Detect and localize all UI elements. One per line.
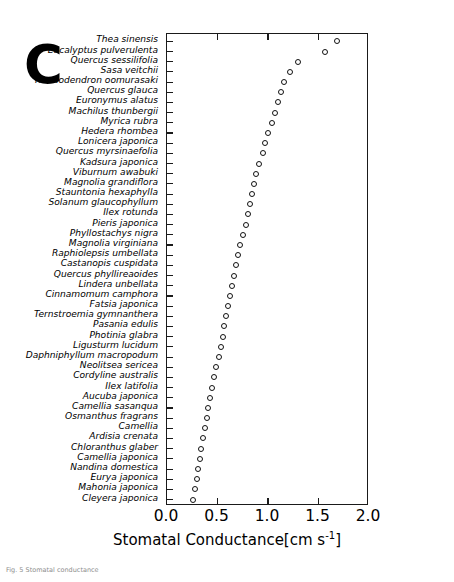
- data-point: [231, 273, 237, 279]
- y-axis-tick: [167, 387, 173, 388]
- data-point: [253, 171, 259, 177]
- x-axis-tick-labels: 0.00.51.01.52.0: [166, 508, 368, 528]
- data-point: [251, 181, 257, 187]
- y-axis-tick: [167, 132, 173, 133]
- y-axis-tick: [167, 234, 173, 235]
- y-axis-tick: [167, 255, 173, 256]
- x-axis-tick: [267, 498, 268, 504]
- category-label: Photinia glabra: [89, 331, 158, 340]
- category-label: Ligusturm lucidum: [73, 341, 158, 350]
- y-axis-tick: [167, 61, 173, 62]
- category-label: Camellia: [118, 423, 158, 432]
- y-axis-tick: [167, 224, 173, 225]
- data-point: [221, 323, 227, 329]
- y-axis-tick: [167, 41, 173, 42]
- y-axis-tick: [167, 316, 173, 317]
- figure-caption: Fig. 5 Stomatal conductance: [6, 566, 99, 574]
- x-axis-title-exponent: -1: [325, 530, 335, 541]
- y-axis-tick: [167, 407, 173, 408]
- x-axis-tick-label: 1.5: [305, 508, 330, 525]
- data-point: [295, 59, 301, 65]
- y-axis-tick: [167, 163, 173, 164]
- data-point: [287, 69, 293, 75]
- data-point: [200, 435, 206, 441]
- x-axis-title: Stomatal Conductance[cm s-1]: [0, 530, 454, 549]
- category-label: Euronymus alatus: [76, 97, 158, 106]
- data-point: [204, 415, 210, 421]
- y-axis-tick: [167, 367, 173, 368]
- category-label: Quercus glauca: [87, 87, 158, 96]
- category-label: Thea sinensis: [96, 36, 158, 45]
- category-label: Ternstroemia gymnanthera: [34, 311, 158, 320]
- y-axis-tick: [167, 377, 173, 378]
- category-label: Cinnamomum camphora: [45, 290, 158, 299]
- category-label: Viburnum awabuki: [73, 168, 158, 177]
- data-point: [272, 110, 278, 116]
- plot-area: [166, 33, 368, 505]
- data-point: [194, 476, 200, 482]
- category-label: Castanopis cuspidata: [61, 260, 158, 269]
- y-axis-tick: [167, 214, 173, 215]
- y-axis-tick: [167, 295, 173, 296]
- y-axis-tick: [167, 448, 173, 449]
- data-point: [225, 303, 231, 309]
- x-axis-tick-label: 0.0: [154, 508, 179, 525]
- category-label: Ardisia crenata: [89, 433, 158, 442]
- y-axis-tick: [167, 153, 173, 154]
- x-axis-title-end: ]: [335, 531, 341, 549]
- data-point: [243, 222, 249, 228]
- data-point: [278, 89, 284, 95]
- x-axis-tick-top: [267, 34, 268, 40]
- category-label: Quercus phyllireaoides: [54, 270, 158, 279]
- data-point: [265, 130, 271, 136]
- y-axis-tick: [167, 397, 173, 398]
- y-axis-tick: [167, 265, 173, 266]
- data-point: [260, 150, 266, 156]
- y-axis-tick: [167, 346, 173, 347]
- category-label: Eurya japonica: [91, 474, 158, 483]
- figure-panel-c: C Thea sinensisEucalyptus pulverulentaQu…: [0, 0, 454, 582]
- category-label: Quercus myrsinaefolia: [56, 148, 158, 157]
- category-label: Rhododendron oomurasaki: [35, 77, 158, 86]
- category-label: Raphiolepsis umbellata: [52, 250, 158, 259]
- y-axis-tick: [167, 82, 173, 83]
- category-label: Fatsia japonica: [90, 301, 158, 310]
- data-point: [269, 120, 275, 126]
- x-axis-tick-top: [217, 34, 218, 40]
- y-axis-tick: [167, 275, 173, 276]
- y-axis-tick: [167, 102, 173, 103]
- data-point: [322, 49, 328, 55]
- category-label: Cleyera japonica: [82, 494, 158, 503]
- data-point: [216, 354, 222, 360]
- category-label: Aucuba japonica: [83, 392, 158, 401]
- x-axis-tick: [217, 498, 218, 504]
- y-axis-tick: [167, 326, 173, 327]
- y-axis-tick: [167, 418, 173, 419]
- data-point: [205, 405, 211, 411]
- category-label: Mahonia japonica: [78, 484, 158, 493]
- data-point: [190, 497, 196, 503]
- category-label: Kadsura japonica: [80, 158, 158, 167]
- data-point: [192, 486, 198, 492]
- data-point: [223, 313, 229, 319]
- data-point: [220, 334, 226, 340]
- x-axis-tick-label: 0.5: [204, 508, 229, 525]
- y-axis-tick: [167, 194, 173, 195]
- y-axis-tick: [167, 112, 173, 113]
- category-label: Ilex rotunda: [103, 209, 158, 218]
- category-label: Hedera rhombea: [81, 127, 158, 136]
- category-label: Lonicera japonica: [78, 138, 158, 147]
- data-point: [227, 293, 233, 299]
- data-point: [197, 456, 203, 462]
- x-axis-tick-label: 2.0: [356, 508, 381, 525]
- category-label: Osmanthus fragrans: [65, 413, 158, 422]
- y-axis-tick: [167, 438, 173, 439]
- y-axis-tick: [167, 357, 173, 358]
- x-axis-tick-label: 1.0: [255, 508, 280, 525]
- data-point: [233, 262, 239, 268]
- data-point: [256, 161, 262, 167]
- category-label: Magnolia virginiana: [69, 239, 158, 248]
- y-axis-tick: [167, 173, 173, 174]
- data-point: [195, 466, 201, 472]
- data-point: [249, 191, 255, 197]
